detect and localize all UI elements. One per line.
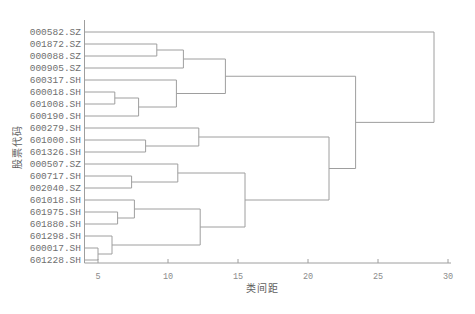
tick-label: 25	[373, 272, 383, 282]
tick-label: 15	[233, 272, 243, 282]
leaf-label: 001872.SZ	[30, 39, 82, 50]
leaf-label: 600018.SH	[30, 87, 81, 98]
leaf-label: 600279.SH	[30, 123, 81, 134]
leaf-label: 601298.SH	[30, 231, 81, 242]
leaf-label: 601326.SH	[30, 147, 81, 158]
tick-label: 5	[95, 272, 100, 282]
dendrogram-figure: 51015202530000582.SZ001872.SZ000088.SZ00…	[0, 0, 475, 314]
leaf-label: 601008.SH	[30, 99, 81, 110]
tick-label: 20	[303, 272, 313, 282]
leaf-label: 601000.SH	[30, 135, 81, 146]
leaf-label: 600317.SH	[30, 75, 81, 86]
leaf-label: 002040.SZ	[30, 183, 82, 194]
y-axis-label: 股票代码	[9, 105, 23, 189]
tick-label: 10	[163, 272, 173, 282]
x-axis-label: 类间距	[246, 280, 279, 295]
leaf-label: 000582.SZ	[30, 27, 82, 38]
leaf-label: 601880.SH	[30, 219, 81, 230]
leaf-label: 600717.SH	[30, 171, 81, 182]
leaf-label: 600190.SH	[30, 111, 81, 122]
leaf-label: 601228.SH	[30, 255, 81, 266]
leaf-label: 600017.SH	[30, 243, 81, 254]
leaf-label: 000905.SZ	[30, 63, 82, 74]
leaf-label: 000507.SZ	[30, 159, 82, 170]
leaf-label: 601018.SH	[30, 195, 81, 206]
leaf-label: 000088.SZ	[30, 51, 82, 62]
leaf-label: 601975.SH	[30, 207, 81, 218]
dendrogram-plot: 51015202530000582.SZ001872.SZ000088.SZ00…	[0, 0, 475, 314]
tick-label: 30	[443, 272, 453, 282]
